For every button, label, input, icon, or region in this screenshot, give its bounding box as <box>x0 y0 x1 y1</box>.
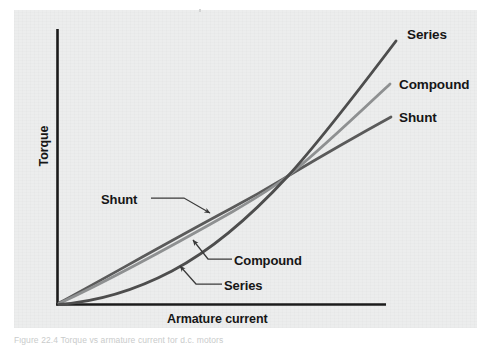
chart-plot-area <box>0 0 491 350</box>
figure-caption-text: Figure 22.4 Torque vs armature current f… <box>14 337 223 345</box>
x-axis-label: Armature current <box>167 312 268 326</box>
annotation-label-compound: Compound <box>234 253 302 268</box>
leader-shunt <box>151 198 210 213</box>
annotation-label-shunt: Shunt <box>101 192 137 207</box>
curve-shunt <box>59 117 391 303</box>
curve-end-label-compound: Compound <box>399 77 469 92</box>
annotation-label-series: Series <box>224 278 262 293</box>
y-axis-label: Torque <box>37 101 51 191</box>
curve-end-label-series: Series <box>407 27 447 42</box>
leader-series <box>180 266 222 284</box>
curve-series <box>59 41 396 305</box>
figure-page: Series Compound Shunt Shunt Compound Ser… <box>0 0 491 350</box>
axis-lines <box>56 29 386 306</box>
figure-caption-strip: Figure 22.4 Torque vs armature current f… <box>14 337 344 350</box>
curve-end-label-shunt: Shunt <box>399 110 437 125</box>
